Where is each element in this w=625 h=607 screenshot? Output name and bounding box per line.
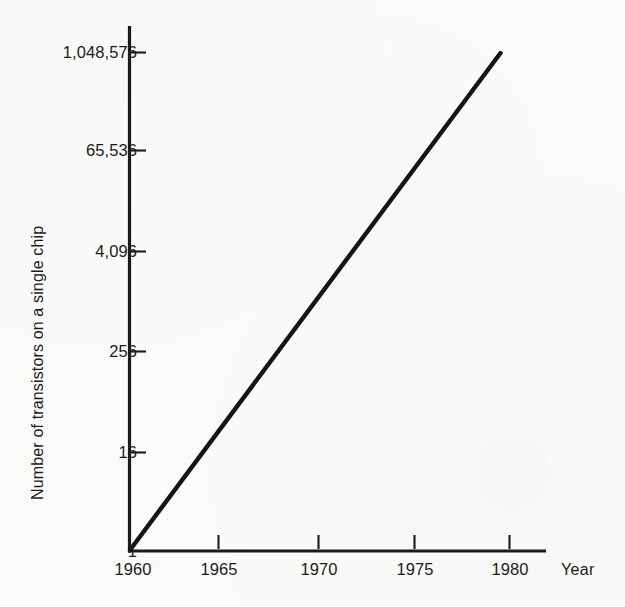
- y-tick-label-1048576: 1,048,576: [63, 44, 137, 61]
- x-tick-label-1965: 1965: [174, 561, 264, 578]
- y-tick-label-16: 16: [118, 444, 137, 461]
- y-tick-label-65536: 65,536: [86, 142, 137, 159]
- data-line-transistors: [130, 53, 501, 550]
- y-tick-label-4096: 4,096: [95, 243, 137, 260]
- x-tick-label-1960: 1960: [88, 561, 178, 578]
- x-axis-ticks: [219, 535, 510, 549]
- y-tick-label-1: 1: [128, 543, 137, 560]
- x-tick-label-1975: 1975: [370, 561, 460, 578]
- moores-law-chart: 1,048,576 65,536 4,096 256 16 1 1960 196…: [0, 0, 625, 607]
- x-tick-label-1980: 1980: [465, 561, 555, 578]
- plot-area: [0, 0, 625, 607]
- x-axis-title: Year: [561, 562, 595, 578]
- y-axis-title: Number of transistors on a single chip: [30, 100, 46, 500]
- y-tick-label-256: 256: [109, 343, 137, 360]
- x-tick-label-1970: 1970: [274, 561, 364, 578]
